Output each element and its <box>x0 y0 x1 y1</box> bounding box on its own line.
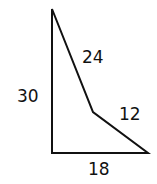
side-label-left: 30 <box>17 88 39 105</box>
side-label-upper-diagonal: 24 <box>82 49 104 66</box>
polygon-outline <box>52 9 148 153</box>
side-label-lower-diagonal: 12 <box>119 106 141 123</box>
side-label-bottom: 18 <box>88 161 110 178</box>
diagram-canvas: 30 24 12 18 <box>0 0 157 184</box>
